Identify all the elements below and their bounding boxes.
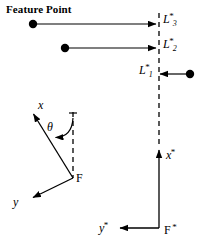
feature-point-dot-3	[29, 20, 37, 28]
label-F-star-base: F	[164, 223, 171, 237]
feature-point-coordinate-frame-diagram: Feature Point L*3 L*2 L*1 x θ F y x* y* …	[0, 0, 199, 251]
label-theta: θ	[47, 121, 53, 133]
label-y-star-axis: y*	[99, 219, 108, 235]
label-L3: L*3	[163, 10, 177, 28]
label-F-star-sup: *	[172, 222, 177, 232]
label-L1: L*1	[139, 61, 153, 79]
label-y-star-sup: *	[104, 220, 109, 230]
label-L3-sub: 3	[173, 19, 177, 28]
feature-point-title: Feature Point	[6, 4, 72, 15]
label-L2: L*2	[163, 35, 177, 53]
feature-point-dot-2	[61, 44, 69, 52]
y-axis-arrow	[33, 178, 73, 198]
label-L2-sub: 2	[173, 44, 177, 53]
theta-arc	[56, 118, 74, 138]
label-origin-F-star: F*	[164, 221, 177, 237]
label-y-axis: y	[13, 196, 18, 208]
label-origin-F: F	[76, 172, 83, 184]
feature-point-dot-1	[186, 70, 194, 78]
x-axis-arrow	[34, 114, 74, 178]
label-L1-sub: 1	[149, 70, 153, 79]
label-x-star-axis: x*	[166, 146, 175, 162]
label-x-star-sup: *	[171, 147, 176, 157]
label-x-axis: x	[38, 99, 43, 111]
